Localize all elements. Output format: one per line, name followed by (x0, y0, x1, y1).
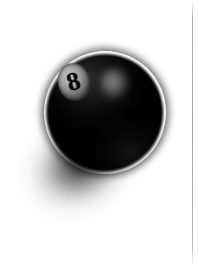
page-edge-rule (192, 2, 193, 265)
specular-highlight-hotspot (103, 73, 123, 93)
image-canvas: 8 (0, 0, 198, 268)
eight-ball: 8 (47, 54, 163, 171)
